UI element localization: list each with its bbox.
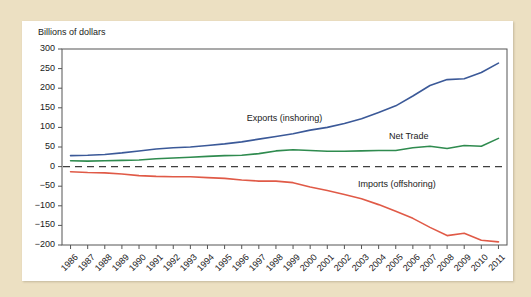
series-line xyxy=(71,138,499,161)
y-axis-tick-label: −150 xyxy=(22,219,55,229)
y-axis-tick-label: −100 xyxy=(22,200,55,210)
y-axis-tick-label: 250 xyxy=(22,63,55,73)
y-axis-tick-label: −50 xyxy=(22,180,55,190)
series-annotation-label: Net Trade xyxy=(389,131,429,141)
series-annotation-label: Imports (offshoring) xyxy=(358,179,436,189)
chart-panel: Billions of dollars 300250200150100500−5… xyxy=(22,21,513,281)
y-axis-tick-label: 0 xyxy=(22,161,55,171)
y-axis-tick-label: 100 xyxy=(22,121,55,131)
y-axis-tick-label: 50 xyxy=(22,141,55,151)
y-axis-tick-label: 300 xyxy=(22,43,55,53)
y-axis-tick-label: −200 xyxy=(22,239,55,249)
chart-plot-area xyxy=(22,21,513,281)
series-annotation-label: Exports (inshoring) xyxy=(247,113,323,123)
series-line xyxy=(71,63,499,156)
y-axis-tick-label: 200 xyxy=(22,82,55,92)
y-axis-tick-label: 150 xyxy=(22,102,55,112)
figure-container: Billions of dollars 300250200150100500−5… xyxy=(0,0,531,297)
